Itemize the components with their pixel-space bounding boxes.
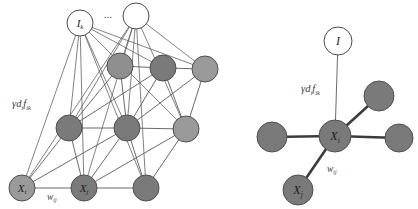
node-I: I — [324, 27, 352, 55]
node-circle — [107, 53, 133, 79]
node-circle — [385, 124, 413, 152]
figure-canvas: IkXiXj IXiXj ... γdifik wij γdifik wij — [0, 0, 418, 209]
node-nR — [385, 124, 413, 152]
left-panel-edges — [22, 16, 205, 188]
node-Xj: Xj — [283, 175, 313, 205]
node-nUR — [364, 81, 394, 111]
node-center: Xi — [319, 120, 351, 152]
node-circle — [173, 116, 199, 142]
ellipsis-label: ... — [104, 8, 112, 20]
node-circle — [56, 115, 82, 141]
node-m2 — [114, 115, 140, 141]
right-panel-edges — [272, 41, 399, 190]
left-weight-text: wij — [47, 192, 57, 203]
left-weight-label: wij — [47, 192, 57, 203]
input-edge — [80, 23, 84, 188]
node-circle — [114, 115, 140, 141]
left-gamma-text: γdifik — [12, 98, 31, 111]
node-Iu — [123, 3, 149, 29]
node-h2 — [150, 55, 176, 81]
node-h3 — [192, 56, 218, 82]
node-m3 — [173, 116, 199, 142]
right-gamma-label: γdifik — [301, 83, 320, 96]
node-circle — [192, 56, 218, 82]
diagram-svg: IkXiXj IXiXj ... γdifik wij γdifik wij — [0, 0, 418, 209]
node-Xj: Xj — [71, 175, 97, 201]
right-gamma-text: γdifik — [301, 83, 320, 96]
node-circle — [123, 3, 149, 29]
node-Xi: Xi — [9, 175, 35, 201]
node-circle — [257, 122, 287, 152]
node-circle — [133, 175, 159, 201]
right-weight-label: wij — [327, 164, 337, 175]
input-edge — [80, 23, 146, 188]
left-gamma-label: γdifik — [12, 98, 31, 111]
node-Xk — [133, 175, 159, 201]
right-panel-nodes: IXiXj — [257, 27, 413, 205]
node-nL — [257, 122, 287, 152]
node-circle — [150, 55, 176, 81]
node-h1 — [107, 53, 133, 79]
input-edge — [22, 16, 136, 188]
node-circle — [364, 81, 394, 111]
node-Ik: Ik — [67, 10, 93, 36]
right-weight-text: wij — [327, 164, 337, 175]
node-m1 — [56, 115, 82, 141]
